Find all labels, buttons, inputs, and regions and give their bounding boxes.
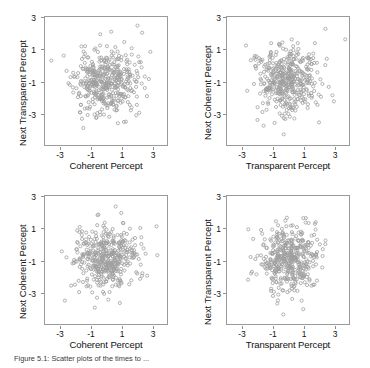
panel-top-right-xlabel: Transparent Percept: [222, 160, 354, 171]
panel-top-left-ytickmark-n1: [41, 82, 44, 83]
panel-bottom-right-xtick-1: 1: [294, 329, 314, 339]
panel-bottom-left-ylabel: Next Coherent Percept: [17, 191, 28, 319]
panel-top-right-ylabel: Next Coherent Percept: [202, 12, 213, 140]
panel-bottom-right-xlabel: Transparent Percept: [222, 339, 354, 350]
panel-bottom-left-ytickmark-n3: [41, 293, 44, 294]
panel-top-right-points: [227, 17, 349, 145]
panel-bottom-right-xtick-n3: -3: [232, 329, 252, 339]
panel-top-right-xtick-n3: -3: [232, 150, 252, 160]
panel-top-right-ytick-1: 1: [205, 45, 221, 55]
panel-bottom-left-ytick-n3: -3: [16, 289, 36, 299]
panel-bottom-right-ytick-n1: -1: [201, 257, 221, 267]
panel-bottom-left-ytick-1: 1: [20, 224, 36, 234]
panel-bottom-left: Next Coherent Percept 3 1 -1 -3 -3 -1 1 …: [0, 179, 185, 351]
panel-top-left-xtick-n3: -3: [50, 150, 70, 160]
panel-bottom-left-xtick-1: 1: [112, 329, 132, 339]
panel-top-left: Next Transparent Percept 3 1 -1 -3 -3 -1…: [0, 0, 185, 172]
panel-bottom-right-plot-area: [226, 195, 350, 325]
panel-top-right-xtick-1: 1: [294, 150, 314, 160]
panel-top-right: Next Coherent Percept 3 1 -1 -3 -3 -1 1 …: [185, 0, 370, 172]
panel-bottom-left-xtick-n3: -3: [50, 329, 70, 339]
panel-top-left-ytickmark-n3: [41, 114, 44, 115]
panel-top-right-ytick-n1: -1: [201, 78, 221, 88]
panel-bottom-right-ytickmark-1: [223, 228, 226, 229]
panel-bottom-right-ytick-n3: -3: [201, 289, 221, 299]
panel-top-left-xlabel: Coherent Percept: [40, 160, 172, 171]
panel-bottom-left-xlabel: Coherent Percept: [40, 339, 172, 350]
panel-bottom-right-xtick-n1: -1: [263, 329, 283, 339]
panel-top-left-ytick-3: 3: [20, 13, 36, 23]
panel-top-left-xtick-1: 1: [112, 150, 132, 160]
panel-bottom-left-xtick-3: 3: [143, 329, 163, 339]
panel-top-right-ytick-3: 3: [205, 13, 221, 23]
panel-bottom-right-ytick-3: 3: [205, 192, 221, 202]
panel-bottom-right-points: [227, 196, 349, 324]
panel-top-right-ytickmark-1: [223, 49, 226, 50]
panel-top-left-ytick-1: 1: [20, 45, 36, 55]
panel-top-right-ytick-n3: -3: [201, 110, 221, 120]
figure-caption: Figure 5.1: Scatter plots of the times t…: [14, 354, 358, 368]
panel-bottom-left-ytickmark-1: [41, 228, 44, 229]
panel-bottom-left-xtick-n1: -1: [81, 329, 101, 339]
figure-scatter-matrix: Next Transparent Percept 3 1 -1 -3 -3 -1…: [0, 0, 370, 368]
panel-top-right-xtick-n1: -1: [263, 150, 283, 160]
panel-top-left-xtick-n1: -1: [81, 150, 101, 160]
panel-top-left-ytickmark-1: [41, 49, 44, 50]
panel-bottom-left-ytick-n1: -1: [16, 257, 36, 267]
panel-bottom-left-points: [45, 196, 167, 324]
panel-top-left-plot-area: [44, 16, 168, 146]
panel-bottom-left-plot-area: [44, 195, 168, 325]
panel-bottom-left-ytickmark-3: [41, 196, 44, 197]
panel-top-right-ytickmark-n1: [223, 82, 226, 83]
panel-top-right-plot-area: [226, 16, 350, 146]
panel-bottom-right-ytickmark-n3: [223, 293, 226, 294]
panel-bottom-right-ytickmark-n1: [223, 261, 226, 262]
panel-bottom-left-ytick-3: 3: [20, 192, 36, 202]
panel-bottom-left-ytickmark-n1: [41, 261, 44, 262]
panel-top-right-ytickmark-3: [223, 17, 226, 18]
panel-bottom-right-ytickmark-3: [223, 196, 226, 197]
panel-top-left-xtick-3: 3: [143, 150, 163, 160]
panel-top-right-xtick-3: 3: [325, 150, 345, 160]
panel-top-left-points: [45, 17, 167, 145]
panel-bottom-right-ytick-1: 1: [205, 224, 221, 234]
panel-top-left-ytickmark-3: [41, 17, 44, 18]
panel-bottom-right-xtick-3: 3: [325, 329, 345, 339]
panel-top-left-ytick-n3: -3: [16, 110, 36, 120]
panel-bottom-right: Next Transparent Percept 3 1 -1 -3 -3 -1…: [185, 179, 370, 351]
panel-top-left-ytick-n1: -1: [16, 78, 36, 88]
panel-top-right-ytickmark-n3: [223, 114, 226, 115]
